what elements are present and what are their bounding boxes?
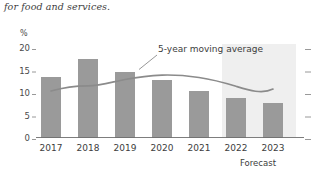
x-tick-label-2019: 2019 [114, 143, 137, 153]
y-tick-label-20: 20 [19, 43, 30, 53]
y-axis-tickmarks-left [32, 50, 36, 140]
x-tick-label-2020: 2020 [151, 143, 174, 153]
y-axis-tick-labels: 20 15 10 5 0 [19, 43, 30, 143]
bar-2019 [115, 72, 135, 137]
y-tick-label-5: 5 [25, 111, 30, 121]
x-tick-label-2017: 2017 [40, 143, 63, 153]
moving-average-annotation-label: 5-year moving average [158, 44, 263, 54]
x-tick-label-2018: 2018 [77, 143, 100, 153]
y-tick-label-0: 0 [25, 133, 30, 143]
x-tick-label-2023: 2023 [262, 143, 285, 153]
bar-2023 [263, 103, 283, 137]
y-tick-label-15: 15 [19, 66, 30, 76]
bar-2018 [78, 59, 98, 138]
bar-2022 [226, 98, 246, 137]
y-axis-tickmarks-right [305, 50, 311, 140]
x-axis-tick-labels: 2017 2018 2019 2020 2021 2022 2023 [40, 143, 285, 153]
bar-2020 [152, 80, 172, 137]
x-tick-label-2022: 2022 [225, 143, 248, 153]
bar-chart: % 20 15 10 5 0 5-year moving average [0, 0, 320, 177]
bar-2021 [189, 91, 209, 138]
y-axis-unit-label: % [20, 29, 28, 38]
x-tick-label-2021: 2021 [188, 143, 211, 153]
annotation-leader-line [139, 55, 157, 70]
y-tick-label-10: 10 [19, 88, 30, 98]
forecast-label: Forecast [240, 158, 277, 168]
bar-2017 [41, 77, 61, 138]
